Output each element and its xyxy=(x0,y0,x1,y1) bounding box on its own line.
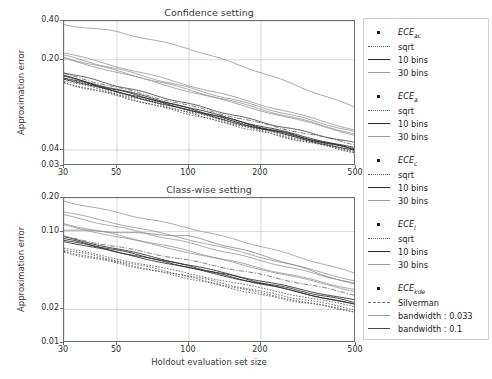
legend-marker-line xyxy=(366,130,392,143)
y-tick-label: 0.10 xyxy=(29,226,59,235)
y-tick-mark xyxy=(60,197,63,198)
legend-entry: Silverman xyxy=(366,296,439,309)
legend-group-label: ECEa xyxy=(398,91,418,103)
x-tick-mark xyxy=(260,165,261,168)
y-tick-mark xyxy=(60,59,63,60)
y-tick-mark xyxy=(60,231,63,232)
legend-entry-label: 30 bins xyxy=(398,132,428,142)
legend-group-header: ECEl xyxy=(366,218,416,231)
series-layer-classwise xyxy=(64,198,355,342)
legend-marker-line xyxy=(366,117,392,130)
legend-entry: 30 bins xyxy=(366,130,428,143)
y-axis-label-confidence: Approximation error xyxy=(16,49,26,134)
x-tick-label: 30 xyxy=(48,345,78,354)
legend-entry-label: bandwidth : 0.033 xyxy=(398,311,473,321)
y-tick-mark xyxy=(60,308,63,309)
panel-title-classwise: Class-wise setting xyxy=(63,184,355,195)
y-tick-label: 0.40 xyxy=(29,15,59,24)
legend-group-header: ECEac xyxy=(366,26,421,39)
y-tick-mark xyxy=(60,149,63,150)
y-axis-label-classwise: Approximation error xyxy=(16,226,26,311)
legend-marker-dot xyxy=(366,90,392,103)
legend-entry-label: 10 bins xyxy=(398,119,428,129)
y-tick-label: 0.20 xyxy=(29,192,59,201)
legend-marker-line xyxy=(366,232,392,245)
legend-marker-line xyxy=(366,194,392,207)
legend-entry-label: 30 bins xyxy=(398,68,428,78)
legend-entry-label: sqrt xyxy=(398,170,414,180)
legend-entry-label: sqrt xyxy=(398,234,414,244)
legend-entry: bandwidth : 0.033 xyxy=(366,309,473,322)
legend-marker-dot xyxy=(366,218,392,231)
x-tick-mark xyxy=(355,342,356,345)
legend-entry: sqrt xyxy=(366,104,414,117)
x-tick-label: 100 xyxy=(173,168,203,177)
legend-entry-label: 30 bins xyxy=(398,260,428,270)
x-tick-label: 50 xyxy=(101,168,131,177)
y-tick-label: 0.20 xyxy=(29,54,59,63)
y-tick-label: 0.02 xyxy=(29,303,59,312)
plot-area-classwise xyxy=(63,197,355,342)
legend-group-header: ECEa xyxy=(366,90,418,103)
legend-entry: 10 bins xyxy=(366,117,428,130)
legend-group-label: ECEac xyxy=(398,27,421,39)
legend-group-header: ECEkde xyxy=(366,282,425,295)
x-tick-mark xyxy=(63,342,64,345)
legend-marker-line xyxy=(366,245,392,258)
legend-marker-dot xyxy=(366,26,392,39)
legend-marker-line xyxy=(366,322,392,335)
y-tick-label: 0.04 xyxy=(29,144,59,153)
legend-entry: sqrt xyxy=(366,40,414,53)
legend-entry-label: 30 bins xyxy=(398,196,428,206)
x-tick-label: 200 xyxy=(245,168,275,177)
x-tick-label: 30 xyxy=(48,168,78,177)
legend-marker-line xyxy=(366,296,392,309)
legend-marker-line xyxy=(366,258,392,271)
legend-marker-line xyxy=(366,104,392,117)
legend-marker-line xyxy=(366,168,392,181)
x-tick-mark xyxy=(116,165,117,168)
x-tick-mark xyxy=(260,342,261,345)
x-tick-mark xyxy=(188,165,189,168)
x-tick-label: 500 xyxy=(340,345,370,354)
x-tick-label: 200 xyxy=(245,345,275,354)
legend-entry: 10 bins xyxy=(366,245,428,258)
x-tick-label: 100 xyxy=(173,345,203,354)
legend: ECEac sqrt 10 bins xyxy=(363,18,489,340)
x-tick-mark xyxy=(355,165,356,168)
legend-group-label: ECEl xyxy=(398,219,416,231)
legend-entry-label: sqrt xyxy=(398,42,414,52)
legend-group-header: ECEc xyxy=(366,154,417,167)
legend-entry: 30 bins xyxy=(366,194,428,207)
legend-marker-line xyxy=(366,40,392,53)
legend-entry-label: 10 bins xyxy=(398,247,428,257)
panel-title-confidence: Confidence setting xyxy=(63,7,355,18)
legend-entry: 30 bins xyxy=(366,66,428,79)
x-tick-mark xyxy=(116,342,117,345)
legend-entry: bandwidth : 0.1 xyxy=(366,322,462,335)
x-tick-label: 50 xyxy=(101,345,131,354)
legend-entry: sqrt xyxy=(366,232,414,245)
y-tick-mark xyxy=(60,20,63,21)
legend-entry: 30 bins xyxy=(366,258,428,271)
legend-marker-line xyxy=(366,309,392,322)
legend-group-label: ECEc xyxy=(398,155,417,167)
x-tick-mark xyxy=(188,342,189,345)
legend-marker-dot xyxy=(366,154,392,167)
figure-root: Confidence setting Approximation error 0… xyxy=(0,0,492,379)
legend-marker-line xyxy=(366,53,392,66)
legend-entry-label: 10 bins xyxy=(398,183,428,193)
legend-entry: 10 bins xyxy=(366,181,428,194)
plot-area-confidence xyxy=(63,20,355,165)
x-tick-mark xyxy=(63,165,64,168)
legend-group-label: ECEkde xyxy=(398,283,425,295)
legend-entry: 10 bins xyxy=(366,53,428,66)
legend-entry-label: bandwidth : 0.1 xyxy=(398,324,462,334)
series-layer-confidence xyxy=(64,21,355,165)
legend-entry-label: Silverman xyxy=(398,298,439,308)
legend-marker-line xyxy=(366,181,392,194)
legend-marker-line xyxy=(366,66,392,79)
legend-entry-label: 10 bins xyxy=(398,55,428,65)
legend-entry: sqrt xyxy=(366,168,414,181)
legend-marker-dot xyxy=(366,282,392,295)
